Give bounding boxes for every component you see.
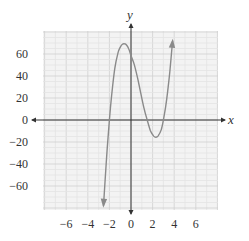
x-tick-label: 4	[171, 217, 177, 231]
y-tick-label: −20	[9, 135, 28, 149]
cubic-function-chart: −6−4−202466040200−20−40−60 x y	[0, 0, 249, 241]
y-tick-label: −60	[9, 179, 28, 193]
y-tick-label: 20	[16, 91, 28, 105]
x-tick-label: 6	[193, 217, 199, 231]
x-axis-arrow-left-icon	[31, 118, 36, 123]
y-tick-label: 60	[16, 47, 28, 61]
x-tick-label: 2	[150, 217, 156, 231]
y-axis-label: y	[125, 7, 133, 22]
y-tick-label: 0	[22, 113, 28, 127]
x-tick-label: −4	[81, 217, 94, 231]
y-tick-label: 40	[16, 69, 28, 83]
y-axis-arrow-up-icon	[129, 23, 134, 28]
x-tick-label: −6	[60, 217, 73, 231]
x-tick-label: −2	[103, 217, 116, 231]
x-tick-label: 0	[128, 217, 134, 231]
y-axis-arrow-down-icon	[129, 210, 134, 215]
x-axis-arrow-right-icon	[221, 118, 226, 123]
x-axis-label: x	[227, 112, 234, 127]
y-tick-label: −40	[9, 157, 28, 171]
